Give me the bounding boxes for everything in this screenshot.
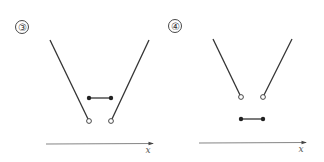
panel-4: ④ x [169, 20, 307, 155]
open-endpoint-left [87, 119, 92, 124]
left-ray [50, 40, 88, 119]
closed-endpoint-left [239, 117, 243, 121]
x-axis [199, 143, 306, 144]
right-ray [112, 40, 149, 119]
closed-endpoint-right [109, 96, 113, 100]
open-endpoint-right [109, 119, 114, 124]
right-ray [264, 39, 292, 95]
panel-number: ④ [171, 21, 180, 32]
x-axis-label: x [298, 144, 303, 154]
closed-endpoint-left [87, 96, 91, 100]
x-axis [46, 144, 153, 145]
open-endpoint-right [261, 95, 266, 100]
closed-endpoint-right [261, 117, 265, 121]
x-axis-label: x [145, 145, 150, 155]
open-endpoint-left [239, 95, 244, 100]
left-ray [213, 39, 240, 95]
graphs-figure: ③ x ④ x [0, 0, 324, 162]
panel-3: ③ x [16, 21, 154, 156]
panel-number: ③ [18, 22, 27, 33]
